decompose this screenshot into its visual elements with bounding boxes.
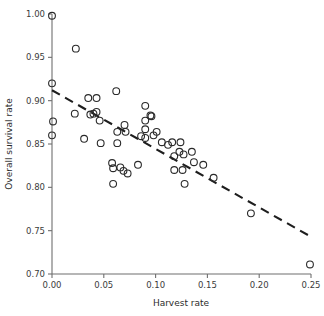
y-tick-label: 0.90 (26, 96, 45, 106)
scatter-plot-figure: 0.700.750.800.850.900.951.00 0.000.050.1… (0, 0, 324, 316)
y-tick-label: 0.85 (26, 139, 45, 149)
data-point (307, 261, 314, 268)
data-point (96, 117, 103, 124)
x-tick-label: 0.05 (94, 280, 113, 290)
y-tick-label: 0.75 (26, 226, 45, 236)
data-point (135, 161, 142, 168)
data-point (142, 126, 149, 133)
data-point (191, 159, 198, 166)
data-point (93, 95, 100, 102)
data-point (113, 88, 120, 95)
data-point (177, 139, 184, 146)
y-axis-tick-labels: 0.700.750.800.850.900.951.00 (26, 9, 45, 279)
data-point (200, 161, 207, 168)
data-point (71, 110, 78, 117)
y-tick-label: 0.80 (26, 182, 45, 192)
y-axis-title: Overall survival rate (4, 98, 14, 190)
data-point (142, 135, 149, 142)
data-point (114, 128, 121, 135)
x-tick-label: 0.15 (198, 280, 217, 290)
data-point (121, 122, 128, 129)
data-point (248, 210, 255, 217)
data-point (97, 140, 104, 147)
x-tick-label: 0.25 (302, 280, 321, 290)
x-axis-title: Harvest rate (153, 298, 210, 308)
y-tick-label: 0.95 (26, 52, 45, 62)
x-tick-label: 0.10 (146, 280, 165, 290)
data-point (142, 117, 149, 124)
data-point (72, 45, 79, 52)
data-points-group (49, 12, 314, 268)
y-tick-label: 1.00 (26, 9, 45, 19)
x-tick-label: 0.20 (250, 280, 269, 290)
y-tick-label: 0.70 (26, 269, 45, 279)
data-point (50, 118, 57, 125)
data-point (142, 102, 149, 109)
data-point (110, 180, 117, 187)
x-axis-tick-labels: 0.000.050.100.150.200.25 (43, 280, 321, 290)
x-tick-label: 0.00 (43, 280, 62, 290)
data-point (85, 95, 92, 102)
data-point (210, 174, 217, 181)
data-point (179, 167, 186, 174)
plot-canvas: 0.700.750.800.850.900.951.00 0.000.050.1… (0, 0, 324, 316)
data-point (114, 140, 121, 147)
data-point (188, 148, 195, 155)
data-point (181, 180, 188, 187)
data-point (138, 133, 145, 140)
data-point (81, 135, 88, 142)
data-point (122, 128, 129, 135)
data-point (171, 167, 178, 174)
